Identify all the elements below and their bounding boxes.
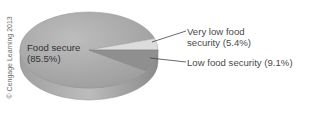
label-low-line1: Low food security (9.1%) bbox=[187, 57, 293, 68]
label-very-low-line2: security (5.4%) bbox=[187, 37, 251, 48]
label-very-low-food-security: Very low food security (5.4%) bbox=[187, 26, 251, 48]
label-food-secure-value: (85.5%) bbox=[27, 53, 80, 64]
label-low-food-security: Low food security (9.1%) bbox=[187, 57, 293, 68]
copyright-credit: © Cengage Learning 2013 bbox=[6, 25, 13, 99]
leader-very-low bbox=[152, 31, 186, 42]
label-food-secure-name: Food secure bbox=[27, 42, 80, 53]
label-very-low-line1: Very low food bbox=[187, 26, 251, 37]
label-food-secure: Food secure (85.5%) bbox=[27, 42, 80, 64]
